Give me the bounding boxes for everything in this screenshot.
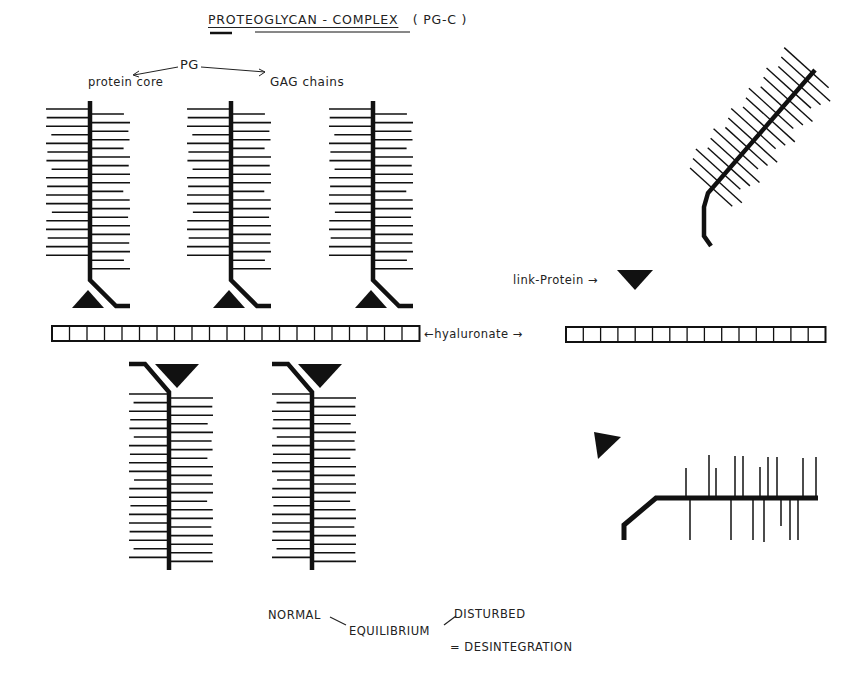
proteoglycan-upper <box>46 101 130 308</box>
protein-core-label: protein core <box>88 75 163 89</box>
free-link-protein-triangle <box>594 432 621 459</box>
proteoglycan-lower <box>272 364 356 570</box>
disturbed-label: DISTURBED <box>454 607 526 621</box>
normal-label: NORMAL <box>268 608 321 622</box>
degraded-proteoglycan <box>624 455 818 542</box>
gag-chains-label: GAG chains <box>270 75 344 89</box>
disintegrating-proteoglycan <box>690 48 830 246</box>
desintegration-label: = DESINTEGRATION <box>450 640 572 654</box>
link-protein-triangle <box>72 290 104 308</box>
hyaluronate-chain-left <box>52 326 420 341</box>
proteoglycan-upper <box>329 101 413 308</box>
equilibrium-label: EQUILIBRIUM <box>349 624 430 638</box>
link-protein-triangle <box>617 270 653 290</box>
hyaluronate-chain-right <box>566 327 826 342</box>
proteoglycan-lower <box>129 364 213 570</box>
diagram-title: PROTEOGLYCAN - COMPLEX ( PG-C ) <box>208 12 467 27</box>
hyaluronate-label: ←hyaluronate → <box>424 327 523 341</box>
link-protein-triangle <box>355 290 387 308</box>
pg-label: PG <box>180 57 199 72</box>
lower-proteoglycans <box>129 364 356 570</box>
title-underline <box>210 32 410 33</box>
upper-proteoglycans <box>46 101 413 308</box>
proteoglycan-diagram <box>0 0 867 682</box>
link-protein-triangle <box>213 290 245 308</box>
title-abbrev: ( PG-C ) <box>413 12 468 27</box>
title-main: PROTEOGLYCAN - COMPLEX <box>208 12 398 27</box>
proteoglycan-upper <box>187 101 271 308</box>
link-protein-label: link-Protein → <box>513 273 598 287</box>
